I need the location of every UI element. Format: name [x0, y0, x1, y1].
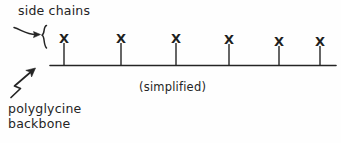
side-chain-x-mark: X — [315, 35, 325, 48]
side-chains-label: side chains — [18, 3, 90, 18]
side-chain-x-mark: X — [59, 32, 69, 45]
curved-arrow-line — [14, 28, 36, 35]
zigzag-arrow-line — [11, 71, 33, 98]
polyglycine-backbone-label-line1: polyglycine — [8, 101, 81, 116]
side-chain-x-mark: X — [116, 32, 126, 45]
curved-arrow-head-icon — [34, 32, 41, 38]
polyglycine-backbone-diagram: X X X X X X side chains (simplified) pol… — [0, 0, 341, 143]
side-chain-x-mark: X — [171, 32, 181, 45]
simplified-label: (simplified) — [139, 80, 206, 94]
polyglycine-backbone-label-line2: backbone — [8, 116, 81, 131]
polyglycine-backbone-label: polyglycine backbone — [8, 101, 81, 131]
side-chain-x-mark: X — [224, 33, 234, 46]
side-chain-x-mark: X — [274, 35, 284, 48]
curly-brace — [42, 26, 47, 49]
